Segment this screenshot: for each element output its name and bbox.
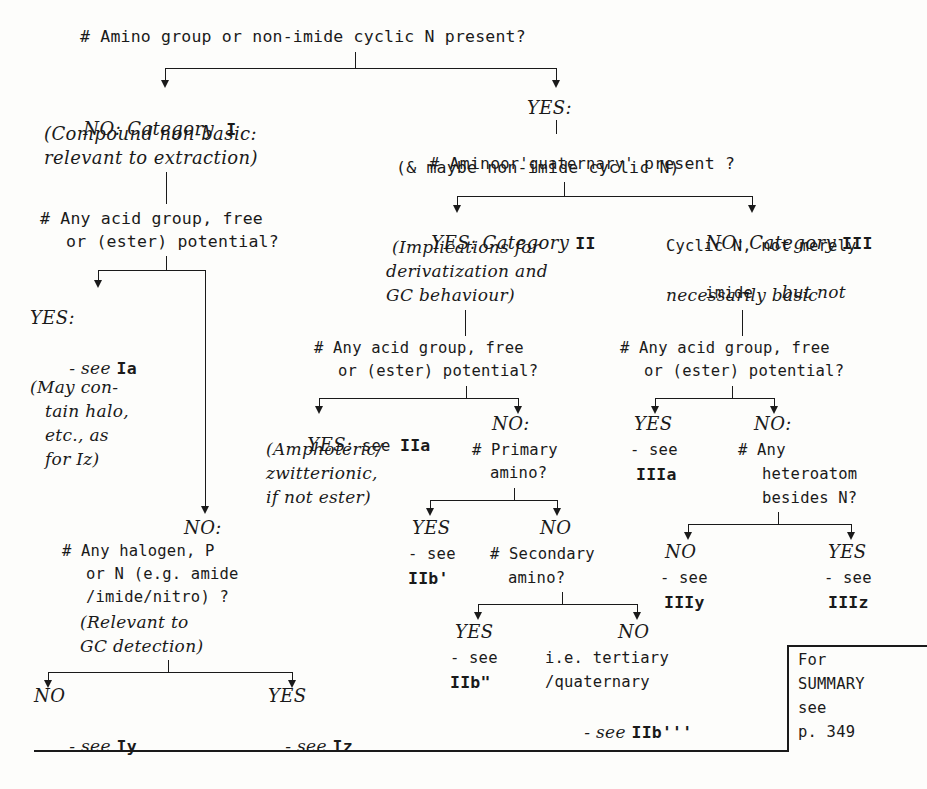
- cat2-acid-question-line2: or (ester) potential?: [338, 361, 538, 381]
- cat1-no-q-line3: /imide/nitro) ?: [86, 587, 229, 607]
- cat1-no-note-line2: GC detection): [80, 635, 203, 657]
- cat1-yes-ref: Ia: [117, 359, 137, 378]
- cat3-stem-to-acid: [742, 310, 743, 336]
- cat2-note-line2: derivatization and: [386, 260, 548, 282]
- cat1-yes-see-text: - see: [69, 358, 111, 378]
- cat23-stem: [564, 182, 565, 196]
- cat1-no-q-line2: or N (e.g. amide: [86, 564, 239, 584]
- cat1-yes-note-line2: tain halo,: [45, 400, 129, 422]
- leaf-Iz-ref: Iz: [333, 737, 353, 756]
- summary-line2: SUMMARY: [798, 674, 865, 694]
- summary-line4: p. 349: [798, 722, 855, 742]
- leaf-IIb3-ref: IIb''': [632, 723, 693, 742]
- cat2-roman: II: [575, 234, 595, 253]
- cat2-tertiary-line1: i.e. tertiary: [545, 648, 669, 668]
- cat2-secondary-split-bar: [478, 604, 638, 605]
- cat1-stem: [166, 172, 167, 204]
- cat2-acid-yes-note1: (Amphoteric/: [266, 438, 382, 460]
- cat23-split-bar: [457, 196, 753, 197]
- cat2-note-line1: (Implications for: [392, 236, 540, 258]
- leaf-Iz-label: YES: [268, 684, 307, 707]
- cat3-acid-split-bar: [655, 398, 775, 399]
- root-question: # Amino group or non-imide cyclic N pres…: [80, 26, 526, 47]
- cat3-het-q-line1: # Any: [738, 440, 786, 460]
- leaf-Iz: - see Iz: [246, 714, 353, 778]
- cat3-acid-question-line2: or (ester) potential?: [644, 361, 844, 381]
- root-split-bar: [165, 68, 557, 69]
- cat2-secondary-q-line1: # Secondary: [490, 544, 595, 564]
- cat2-acid-question-line1: # Any acid group, free: [314, 338, 524, 358]
- cat2-acid-split-bar: [319, 398, 519, 399]
- arrow-icon-cat2-primary-yes: [426, 508, 434, 516]
- arrow-icon-root-right: [552, 80, 560, 88]
- cat1-leaf-stem: [168, 660, 169, 672]
- bottom-rule: [34, 750, 789, 752]
- arrow-icon-cat3-het-no: [684, 532, 692, 540]
- cat3-het-yes-label: YES: [828, 540, 867, 563]
- cat1-yes-note-line4: for Iz): [45, 448, 99, 470]
- cat3-note-line3: necessarily basic: [666, 284, 818, 306]
- cat3-het-no-see: - see: [660, 568, 708, 588]
- cat1-no-note-line1: (Relevant to: [80, 611, 189, 633]
- arrow-icon-cat2-secondary-no: [633, 612, 641, 620]
- leaf-Iz-see: - see: [285, 736, 327, 756]
- leaf-IIIz-ref: IIIz: [828, 592, 869, 613]
- cat1-note-line2: relevant to extraction): [44, 146, 258, 169]
- arrow-icon-cat3-het-yes: [847, 532, 855, 540]
- summary-line3: see: [798, 698, 827, 718]
- cat3-note-line1: Cyclic N, not merely: [666, 236, 857, 256]
- cat1-leaf-split-bar: [48, 672, 293, 673]
- cat1-acid-question-line1: # Any acid group, free: [40, 208, 263, 229]
- cat2-primary-q-line1: # Primary: [472, 440, 558, 460]
- cat2-stem-to-acid: [465, 310, 466, 336]
- cat1-acid-question-line2: or (ester) potential?: [66, 231, 279, 252]
- cat2-primary-split-bar: [430, 500, 558, 501]
- cat3-acid-yes-label: YES: [634, 412, 673, 435]
- root-yes-label: YES:: [527, 96, 572, 119]
- cat1-yes-note-line3: etc., as: [45, 424, 109, 446]
- cat2-acid-yes-ref: IIa: [400, 436, 430, 455]
- leaf-Iy-ref: Iy: [117, 737, 137, 756]
- cat1-yes-note-line1: (May con-: [30, 376, 118, 398]
- arrow-icon-cat2-secondary-yes: [474, 612, 482, 620]
- cat1-note-line1: (Compound non-basic:: [44, 122, 257, 145]
- cat3-het-q-line3: besides N?: [762, 488, 857, 508]
- cat2-primary-no-label: NO: [540, 516, 571, 539]
- root-stem: [355, 52, 356, 68]
- summary-box-top-line: [787, 645, 927, 647]
- flowchart-page: # Amino group or non-imide cyclic N pres…: [0, 0, 927, 789]
- leaf-Iy-see: - see: [69, 736, 111, 756]
- cat2-acid-stem: [466, 386, 467, 398]
- cat3-het-stem: [778, 512, 779, 524]
- cat1-acid-no-long-line: [205, 270, 206, 509]
- cat1-yes-label: YES:: [30, 306, 75, 329]
- cat3-acid-stem: [732, 386, 733, 398]
- leaf-IIb2-ref: IIb": [450, 672, 491, 693]
- leaf-Iy: - see Iy: [30, 714, 137, 778]
- cat2-primary-yes-see: - see: [408, 544, 456, 564]
- cat3-acid-yes-see: - see: [630, 440, 678, 460]
- cat2-acid-yes-note2: zwitterionic,: [266, 462, 378, 484]
- cat1-no-label-2: NO:: [184, 516, 222, 539]
- cat2-note-line3: GC behaviour): [386, 284, 515, 306]
- cat2-secondary-yes-label: YES: [455, 620, 494, 643]
- cat2-primary-yes-label: YES: [412, 516, 451, 539]
- cat3-acid-no-label: NO:: [754, 412, 792, 435]
- cat3-het-yes-see: - see: [824, 568, 872, 588]
- cat2-acid-yes-note3: if not ester): [266, 486, 371, 508]
- cat2-tertiary-line2: /quaternary: [545, 672, 650, 692]
- leaf-IIb3: - see IIb''': [545, 700, 692, 764]
- cat3-het-q-line2: heteroatom: [762, 464, 857, 484]
- cat3-het-no-label: NO: [665, 540, 696, 563]
- arrow-icon-cat1-yes: [94, 280, 102, 288]
- summary-box-left-line: [787, 645, 789, 750]
- cat2-primary-q-line2: amino?: [490, 463, 547, 483]
- arrow-icon-cat1-no: [201, 506, 209, 514]
- cat3-acid-question-line1: # Any acid group, free: [620, 338, 830, 358]
- cat2-secondary-no-label: NO: [618, 620, 649, 643]
- leaf-IIIy-ref: IIIy: [664, 592, 705, 613]
- leaf-IIb3-see: - see: [584, 722, 626, 742]
- leaf-IIb1-ref: IIb': [408, 568, 449, 589]
- arrow-icon-root-left: [161, 80, 169, 88]
- leaf-Iy-label: NO: [34, 684, 65, 707]
